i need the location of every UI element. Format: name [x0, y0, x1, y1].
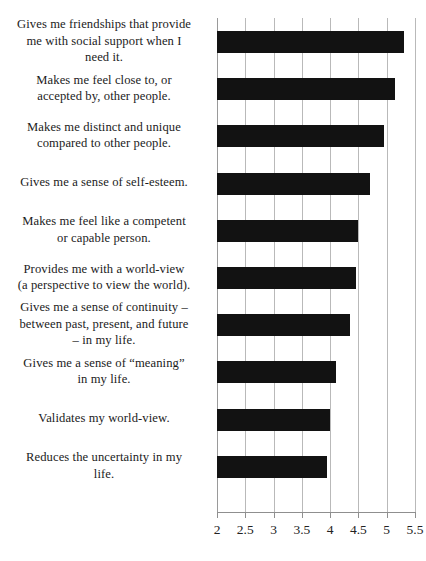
- category-label-line: Gives me a sense of continuity –: [4, 299, 204, 316]
- category-label-line: life.: [4, 466, 204, 483]
- category-label-line: or capable person.: [4, 230, 204, 247]
- category-label-column: Gives me friendships that provideme with…: [0, 0, 210, 561]
- category-label: Validates my world-view.: [4, 410, 204, 427]
- category-label: Makes me feel like a competentor capable…: [4, 213, 204, 246]
- category-label: Reduces the uncertainty in mylife.: [4, 449, 204, 482]
- category-label: Provides me with a world-view(a perspect…: [4, 261, 204, 294]
- category-label-line: Makes me distinct and unique: [4, 119, 204, 136]
- category-label-line: in my life.: [4, 371, 204, 388]
- x-tick: [330, 513, 331, 518]
- bar: [217, 361, 336, 383]
- category-label-line: need it.: [4, 49, 204, 66]
- bar: [217, 409, 330, 431]
- x-tick: [217, 513, 218, 518]
- category-label-line: between past, present, and future: [4, 316, 204, 333]
- x-tick: [415, 513, 416, 518]
- category-label-line: Reduces the uncertainty in my: [4, 449, 204, 466]
- bar: [217, 78, 395, 100]
- category-label: Makes me distinct and uniquecompared to …: [4, 119, 204, 152]
- gridline-5-5: [415, 18, 416, 513]
- bar: [217, 456, 327, 478]
- x-tick: [245, 513, 246, 518]
- x-tick: [274, 513, 275, 518]
- category-label-line: compared to other people.: [4, 135, 204, 152]
- category-label: Gives me a sense of continuity –between …: [4, 299, 204, 349]
- category-label: Gives me a sense of “meaning”in my life.: [4, 355, 204, 388]
- category-label-line: accepted by, other people.: [4, 88, 204, 105]
- plot-area: [217, 18, 415, 513]
- category-label-line: Makes me feel like a competent: [4, 213, 204, 230]
- category-label-line: Provides me with a world-view: [4, 261, 204, 278]
- bar: [217, 125, 384, 147]
- bar-chart: Gives me friendships that provideme with…: [0, 0, 426, 561]
- category-label-line: Gives me a sense of “meaning”: [4, 355, 204, 372]
- category-label: Makes me feel close to, oraccepted by, o…: [4, 72, 204, 105]
- category-label-line: Validates my world-view.: [4, 410, 204, 427]
- category-label-line: Gives me a sense of self-esteem.: [4, 174, 204, 191]
- x-tick: [387, 513, 388, 518]
- x-tick-label: 5.5: [395, 521, 426, 538]
- bar: [217, 220, 358, 242]
- category-label-line: Makes me feel close to, or: [4, 72, 204, 89]
- category-label-line: me with social support when I: [4, 33, 204, 50]
- category-label-line: (a perspective to view the world).: [4, 277, 204, 294]
- x-tick: [358, 513, 359, 518]
- category-label: Gives me a sense of self-esteem.: [4, 174, 204, 191]
- category-label: Gives me friendships that provideme with…: [4, 16, 204, 66]
- category-label-line: – in my life.: [4, 332, 204, 349]
- bar: [217, 173, 370, 195]
- bar: [217, 31, 404, 53]
- bar: [217, 314, 350, 336]
- bar: [217, 267, 356, 289]
- x-tick: [302, 513, 303, 518]
- category-label-line: Gives me friendships that provide: [4, 16, 204, 33]
